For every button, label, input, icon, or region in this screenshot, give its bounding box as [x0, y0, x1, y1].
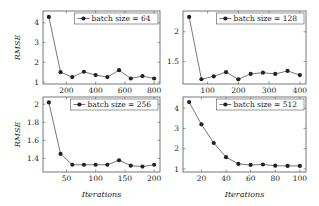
plot-batch-512: 204060801001234batch size = 512Iteration…	[174, 97, 307, 199]
data-point-marker	[105, 75, 109, 79]
y-tick-label: 1.4	[27, 154, 39, 163]
plot-batch-256: 501001502001.41.61.82batch size = 256RMS…	[13, 97, 162, 199]
y-tick-label: 2	[174, 27, 179, 36]
y-tick-label: 1.5	[167, 57, 179, 66]
data-point-marker	[199, 77, 203, 81]
data-point-marker	[199, 122, 203, 126]
x-tick-label: 40	[221, 174, 231, 183]
data-point-marker	[117, 158, 121, 162]
legend-marker-icon	[223, 16, 227, 20]
y-tick-label: 2	[174, 144, 179, 153]
data-point-marker	[187, 100, 191, 104]
x-tick-label: 50	[62, 174, 72, 183]
data-point-marker	[140, 74, 144, 78]
legend-label: batch size = 128	[233, 14, 297, 23]
data-point-marker	[273, 72, 277, 76]
y-axis-label: RMSE	[13, 122, 22, 149]
data-line	[49, 17, 154, 79]
x-tick-label: 200	[231, 86, 246, 95]
data-point-marker	[70, 163, 74, 167]
legend-label: batch size = 64	[92, 14, 151, 23]
data-point-marker	[82, 70, 86, 74]
data-point-marker	[152, 163, 156, 167]
data-point-marker	[249, 72, 253, 76]
data-point-marker	[236, 162, 240, 166]
legend: batch size = 64	[75, 13, 159, 24]
y-tick-label: 2	[34, 58, 39, 67]
data-point-marker	[70, 75, 74, 79]
data-point-marker	[298, 164, 302, 168]
data-point-marker	[140, 164, 144, 168]
x-axis-label: Iterations	[224, 190, 265, 199]
legend-marker-icon	[81, 16, 85, 20]
chart-grid: 2004006008001234batch size = 64RMSE 1002…	[0, 0, 319, 206]
legend-label: batch size = 256	[87, 100, 151, 109]
data-point-marker	[212, 141, 216, 145]
x-axis-label: Iterations	[81, 190, 122, 199]
data-line	[49, 102, 154, 166]
x-tick-label: 20	[197, 174, 207, 183]
data-point-marker	[285, 69, 289, 73]
x-tick-label: 400	[88, 86, 103, 95]
x-tick-label: 80	[270, 174, 280, 183]
plot-batch-64: 2004006008001234batch size = 64RMSE	[13, 11, 162, 95]
y-tick-label: 1	[34, 78, 39, 87]
data-point-marker	[224, 155, 228, 159]
x-tick-label: 400	[293, 86, 308, 95]
data-point-marker	[249, 163, 253, 167]
data-point-marker	[285, 164, 289, 168]
data-point-marker	[58, 70, 62, 74]
data-point-marker	[94, 163, 98, 167]
plot-batch-128: 1002003004001.52batch size = 128	[167, 11, 307, 95]
legend: batch size = 512	[216, 99, 304, 110]
legend-marker-icon	[77, 102, 81, 106]
x-tick-label: 100	[200, 86, 215, 95]
data-line	[189, 102, 300, 166]
data-point-marker	[261, 162, 265, 166]
y-tick-label: 1	[174, 165, 179, 174]
data-point-marker	[129, 76, 133, 80]
x-tick-label: 300	[262, 86, 277, 95]
data-point-marker	[58, 152, 62, 156]
x-tick-label: 100	[293, 174, 308, 183]
x-tick-label: 600	[118, 86, 133, 95]
x-tick-label: 200	[59, 86, 74, 95]
data-line	[189, 17, 300, 79]
legend: batch size = 128	[216, 13, 304, 24]
y-axis-label: RMSE	[13, 35, 22, 62]
legend-marker-icon	[223, 102, 227, 106]
data-point-marker	[94, 73, 98, 77]
data-point-marker	[82, 163, 86, 167]
data-point-marker	[298, 73, 302, 77]
legend: batch size = 256	[70, 99, 158, 110]
legend-label: batch size = 512	[233, 100, 297, 109]
data-point-marker	[117, 68, 121, 72]
y-tick-label: 4	[174, 104, 179, 113]
y-tick-label: 4	[34, 18, 39, 27]
x-tick-label: 150	[118, 174, 133, 183]
data-point-marker	[224, 70, 228, 74]
figure: 2004006008001234batch size = 64RMSE 1002…	[0, 0, 319, 206]
x-tick-label: 60	[246, 174, 256, 183]
data-point-marker	[212, 74, 216, 78]
data-point-marker	[152, 76, 156, 80]
data-point-marker	[47, 100, 51, 104]
x-tick-label: 200	[147, 174, 162, 183]
x-tick-label: 800	[147, 86, 162, 95]
y-tick-label: 2	[34, 100, 39, 109]
y-tick-label: 3	[34, 38, 39, 47]
data-point-marker	[273, 164, 277, 168]
data-point-marker	[129, 164, 133, 168]
data-point-marker	[261, 71, 265, 75]
data-point-marker	[105, 163, 109, 167]
data-point-marker	[47, 15, 51, 19]
y-tick-label: 1.6	[27, 136, 39, 145]
data-point-marker	[236, 77, 240, 81]
x-tick-label: 100	[88, 174, 103, 183]
data-point-marker	[187, 15, 191, 19]
y-tick-label: 3	[174, 124, 179, 133]
y-tick-label: 1.8	[27, 118, 39, 127]
